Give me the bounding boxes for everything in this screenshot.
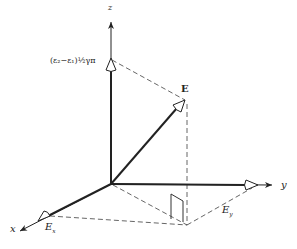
e-vector-label: E: [181, 84, 189, 94]
z-component-arrowhead-icon: [106, 58, 116, 72]
y-component-subscript: y: [229, 210, 232, 217]
x-component-subscript: x: [52, 227, 55, 234]
z-component-label: (ε₂−ε₁)½γπ: [50, 57, 95, 65]
diagram-canvas: [0, 0, 297, 249]
x-component-vector: [48, 184, 111, 216]
z-axis-label: z: [108, 4, 112, 12]
e-vector: [111, 108, 177, 184]
x-component-label: Ex: [45, 222, 56, 234]
x-axis-label: x: [10, 224, 16, 234]
y-component-label: Ey: [222, 205, 233, 217]
y-component-vector: [111, 184, 246, 185]
y-axis-label: y: [281, 180, 287, 190]
x-component-arrowhead-icon: [38, 211, 50, 221]
